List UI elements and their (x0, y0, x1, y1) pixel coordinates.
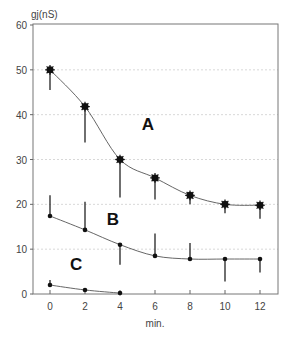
y-tick-label: 10 (16, 244, 28, 255)
x-axis-title: min. (146, 318, 165, 329)
y-tick-label: 30 (16, 155, 28, 166)
x-tick-label: 12 (254, 301, 266, 312)
x-tick-label: 10 (219, 301, 231, 312)
data-point-B (153, 254, 158, 259)
data-point-C (83, 288, 88, 293)
series-label-A: A (142, 115, 154, 134)
series-label-B: B (107, 210, 119, 229)
y-tick-label: 40 (16, 110, 28, 121)
x-tick-label: 6 (152, 301, 158, 312)
x-tick-label: 4 (117, 301, 123, 312)
series-label-C: C (70, 255, 82, 274)
data-point-C (118, 291, 123, 296)
x-tick-label: 8 (187, 301, 193, 312)
data-point-B (258, 257, 263, 262)
data-point-C (48, 283, 53, 288)
y-tick-label: 0 (21, 289, 27, 300)
x-tick-label: 0 (47, 301, 53, 312)
chart: 0102030405060024681012min.gj(nS)ABC (0, 0, 295, 342)
y-tick-label: 60 (16, 20, 28, 31)
data-point-B (118, 242, 123, 247)
x-tick-label: 2 (82, 301, 88, 312)
y-axis-title: gj(nS) (31, 9, 58, 20)
data-point-B (83, 228, 88, 233)
data-point-B (223, 257, 228, 262)
y-tick-label: 20 (16, 199, 28, 210)
y-tick-label: 50 (16, 65, 28, 76)
data-point-B (48, 214, 53, 219)
data-point-B (188, 257, 193, 262)
